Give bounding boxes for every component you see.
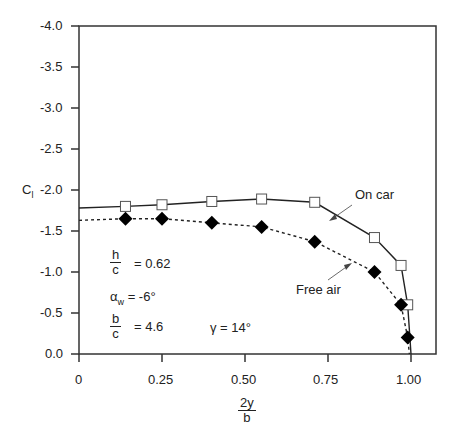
open-square-marker-icon: [157, 200, 167, 210]
alpha-symbol: α: [110, 289, 118, 304]
free-air-label: Free air: [296, 282, 341, 297]
gamma-label: γ = 14°: [210, 320, 251, 335]
y-tick-label: -0.5: [40, 305, 62, 320]
filled-diamond-marker-icon: [401, 331, 415, 345]
x-tick-label: 1.00: [396, 372, 421, 387]
on-car-label: On car: [355, 187, 394, 202]
y-tick-label: -4.0: [40, 18, 62, 33]
y-tick-label: -1.5: [40, 223, 62, 238]
filled-diamond-marker-icon: [308, 235, 322, 249]
b-over-c-fraction: b c: [110, 312, 121, 341]
y-tick-label: 0.0: [45, 346, 63, 361]
b-numerator: b: [110, 312, 121, 327]
filled-diamond-marker-icon: [255, 220, 269, 234]
open-square-marker-icon: [207, 196, 217, 206]
open-square-marker-icon: [369, 233, 379, 243]
filled-diamond-marker-icon: [205, 216, 219, 230]
y-tick-label: -2.0: [40, 182, 62, 197]
x-axis-title-numerator: 2y: [238, 396, 256, 411]
x-tick-label: 0: [75, 372, 82, 387]
c-denominator: c: [112, 327, 119, 341]
open-square-marker-icon: [120, 201, 130, 211]
x-tick-label: 0.50: [231, 372, 256, 387]
alpha-w-value: = -6°: [128, 289, 156, 304]
y-tick-label: -3.0: [40, 100, 62, 115]
x-tick-label: 0.25: [148, 372, 173, 387]
h-over-c-fraction: h c: [110, 248, 121, 277]
y-tick-label: -1.0: [40, 264, 62, 279]
x-tick-label: 0.75: [313, 372, 338, 387]
b-over-c-value: = 4.6: [134, 319, 163, 334]
y-tick-label: -2.5: [40, 141, 62, 156]
alpha-w-label: αw = -6°: [110, 289, 156, 307]
y-tick-label: -3.5: [40, 59, 62, 74]
open-square-marker-icon: [310, 197, 320, 207]
y-axis-title-sub: l: [31, 190, 33, 200]
open-square-marker-icon: [257, 194, 267, 204]
alpha-subscript: w: [118, 297, 125, 307]
y-axis-title-main: C: [22, 182, 31, 197]
x-axis-title: 2y b: [238, 396, 256, 425]
open-square-marker-icon: [396, 260, 406, 270]
y-axis-ticks: [71, 26, 79, 354]
h-numerator: h: [110, 248, 121, 263]
free-air-arrowhead-icon: [344, 263, 352, 270]
filled-diamond-marker-icon: [118, 212, 132, 226]
filled-diamond-marker-icon: [367, 265, 381, 279]
x-axis-ticks: [79, 354, 411, 362]
chart-canvas: [0, 0, 455, 440]
y-axis-title: Cl: [22, 182, 33, 200]
c-denominator: c: [112, 263, 119, 277]
x-axis-title-denominator: b: [243, 411, 250, 425]
filled-diamond-marker-icon: [155, 212, 169, 226]
h-over-c-value: = 0.62: [134, 256, 171, 271]
